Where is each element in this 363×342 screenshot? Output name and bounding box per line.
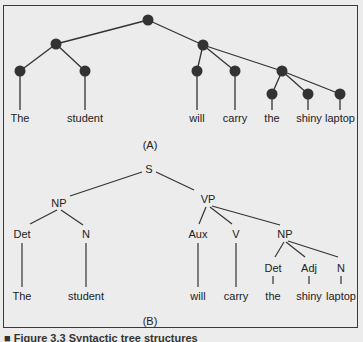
word-a: laptop	[325, 112, 355, 124]
word-b: The	[13, 290, 32, 302]
node-n: N	[82, 228, 90, 240]
word-b: the	[265, 290, 280, 302]
word-b: will	[189, 290, 205, 302]
node-dot-icon	[335, 89, 346, 100]
node-dot-icon	[80, 66, 91, 77]
node-s: S	[145, 163, 152, 175]
tree-b	[22, 172, 341, 287]
node-det: Det	[264, 262, 281, 274]
figure-caption: ■ Figure 3.3 Syntactic tree structures	[4, 333, 198, 342]
word-a: shiny	[296, 112, 322, 124]
tree-diagrams: The student will carry the shiny laptop …	[0, 0, 363, 342]
node-dot-icon	[230, 66, 241, 77]
word-b: shiny	[296, 290, 322, 302]
panel-b-label: (B)	[143, 315, 158, 327]
node-dot-icon	[277, 66, 288, 77]
word-a: student	[67, 112, 103, 124]
node-np: NP	[51, 197, 66, 209]
node-dot-icon	[198, 40, 209, 51]
word-b: laptop	[326, 290, 356, 302]
word-b: carry	[224, 290, 249, 302]
node-det: Det	[13, 228, 30, 240]
node-v: V	[232, 228, 240, 240]
panel-a-label: (A)	[143, 139, 158, 151]
node-dot-icon	[192, 66, 203, 77]
word-a: carry	[223, 112, 248, 124]
tree-a-nodes	[15, 15, 346, 100]
word-a: the	[264, 112, 279, 124]
node-np: NP	[277, 228, 292, 240]
word-b: student	[68, 290, 104, 302]
node-dot-icon	[51, 39, 62, 50]
node-dot-icon	[15, 66, 26, 77]
node-adj: Adj	[301, 262, 317, 274]
node-n: N	[337, 262, 345, 274]
node-aux: Aux	[189, 228, 208, 240]
node-dot-icon	[303, 89, 314, 100]
node-dot-icon	[143, 15, 154, 26]
word-a: The	[11, 112, 30, 124]
node-vp: VP	[201, 193, 216, 205]
tree-a	[20, 20, 340, 110]
word-a: will	[188, 112, 204, 124]
node-dot-icon	[267, 89, 278, 100]
